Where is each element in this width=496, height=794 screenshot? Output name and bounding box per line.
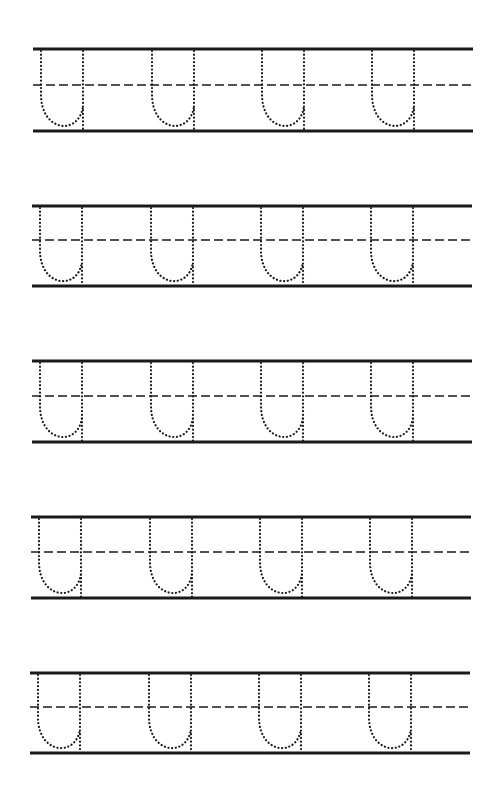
letter-bowl-stroke [41,51,83,126]
tracing-letter-u [41,51,83,130]
letter-bowl-stroke [260,519,302,593]
practice-row [31,517,471,598]
letter-bowl-stroke [38,675,80,748]
letter-bowl-stroke [40,208,82,281]
letter-bowl-stroke [259,675,301,748]
letter-bowl-stroke [40,363,82,437]
letter-bowl-stroke [39,519,81,593]
letter-bowl-stroke [151,363,193,437]
tracing-letter-u [371,363,413,441]
letter-bowl-stroke [370,519,412,593]
letter-bowl-stroke [261,363,303,437]
tracing-letter-u [40,363,82,441]
letter-bowl-stroke [262,51,304,126]
tracing-letter-u [262,51,304,130]
letter-bowl-stroke [371,208,413,281]
tracing-letter-u [259,675,301,752]
tracing-letter-u [370,519,412,597]
letter-bowl-stroke [371,363,413,437]
tracing-letter-u [151,363,193,441]
practice-row [33,49,473,131]
letter-bowl-stroke [149,675,191,748]
practice-row [30,673,470,753]
handwriting-worksheet [0,0,496,794]
tracing-letter-u [260,519,302,597]
tracing-letter-u [261,363,303,441]
tracing-letter-u [261,208,303,285]
tracing-letter-u [40,208,82,285]
letter-bowl-stroke [369,675,411,748]
letter-bowl-stroke [152,51,194,126]
tracing-letter-u [371,208,413,285]
tracing-letter-u [38,675,80,752]
letter-bowl-stroke [151,208,193,281]
letter-bowl-stroke [261,208,303,281]
tracing-letter-u [39,519,81,597]
tracing-letter-u [150,519,192,597]
tracing-letter-u [372,51,414,130]
tracing-letter-u [152,51,194,130]
practice-row [32,361,472,442]
letter-bowl-stroke [372,51,414,126]
tracing-letter-u [149,675,191,752]
tracing-letter-u [369,675,411,752]
tracing-letter-u [151,208,193,285]
letter-bowl-stroke [150,519,192,593]
practice-row [32,206,472,286]
